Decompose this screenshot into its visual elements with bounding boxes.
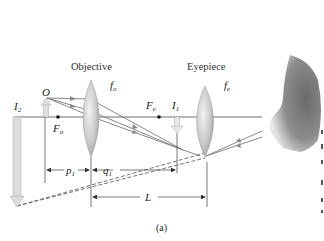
eye-face-icon xyxy=(270,55,321,152)
objective-focus-point xyxy=(56,115,60,119)
objective-focus-label: Fo xyxy=(53,123,63,136)
p1-distance-label: p1 xyxy=(66,165,75,178)
figure-caption: (a) xyxy=(156,223,167,233)
object-label: O xyxy=(42,87,50,98)
objective-label: Objective xyxy=(71,62,112,73)
image1-label: I1 xyxy=(172,100,179,113)
objective-focal-length-label: fo xyxy=(110,80,117,93)
eyepiece-focal-length-label: fe xyxy=(224,80,230,93)
diagram-canvas xyxy=(0,0,324,241)
eyepiece-label: Eyepiece xyxy=(187,62,225,73)
eyepiece-lens xyxy=(197,86,214,157)
image2-label: I2 xyxy=(14,101,21,114)
object-arrow-icon xyxy=(41,98,51,117)
objective-lens xyxy=(83,80,99,157)
microscope-diagram: Objective Eyepiece fo fe O I2 Fo Fe I1 p… xyxy=(0,0,324,241)
page-edge-marks xyxy=(321,130,323,213)
dimension-lines xyxy=(45,117,207,207)
eyepiece-focus-point xyxy=(157,115,161,119)
image1-arrow-icon xyxy=(171,117,183,133)
q1-distance-label: q1 xyxy=(103,165,112,178)
eyepiece-focus-label: Fe xyxy=(146,100,156,113)
tube-length-label: L xyxy=(145,192,151,203)
image2-arrow-icon xyxy=(10,117,24,207)
